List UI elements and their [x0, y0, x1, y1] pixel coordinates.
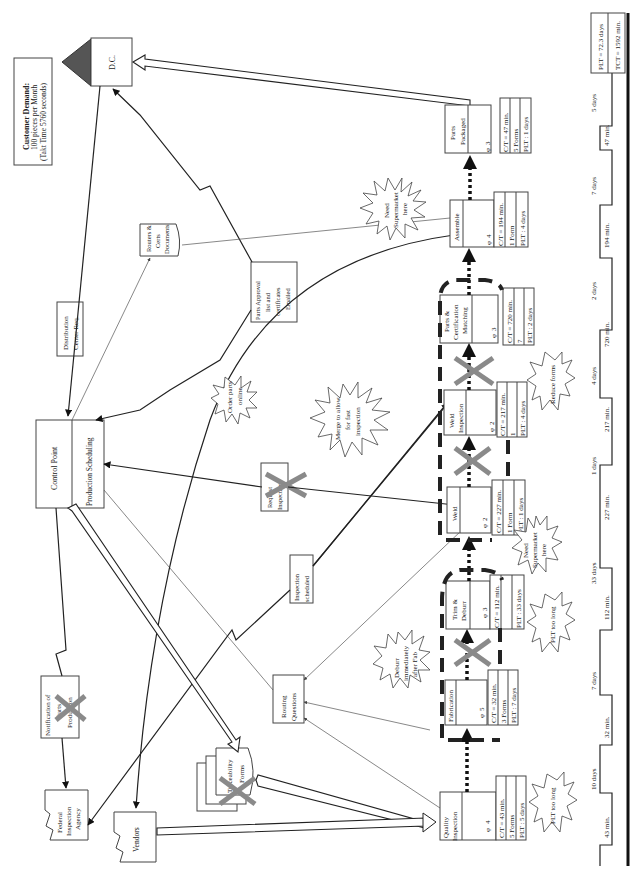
svg-text:Inspection: Inspection — [293, 573, 300, 601]
flow-control-to-routers — [72, 258, 150, 420]
shipment-arrow-to-dc — [133, 55, 470, 106]
timeline-value-time: 217 min. — [603, 407, 611, 432]
timeline-wait-time: 7 days — [590, 672, 598, 690]
svg-text:C/T = 47 min.: C/T = 47 min. — [502, 112, 510, 152]
svg-text:3: 3 — [490, 327, 498, 331]
kaizen-burst-reduce-forms: Reduce forms — [527, 352, 575, 410]
svg-text:Deburr: Deburr — [460, 601, 468, 621]
flow-dc-to-control — [68, 86, 100, 416]
svg-text:C/T = 194 min.: C/T = 194 min. — [497, 203, 505, 246]
svg-text:Federal: Federal — [56, 812, 64, 833]
distribution-center-req-box: Distribution Center Req. — [57, 302, 83, 356]
svg-text:C/T = 112 min.: C/T = 112 min. — [493, 585, 501, 628]
timeline-summary-box: PLT = 72.3 days TCT = 1592 min. — [591, 13, 625, 73]
value-stream-map: Customer Demand: 100 pieces per Month (T… — [0, 0, 635, 878]
operator-icon: φ — [484, 828, 492, 832]
svg-text:4: 4 — [484, 820, 492, 824]
operator-icon: φ — [478, 714, 486, 718]
svg-text:Parts Approval: Parts Approval — [254, 281, 261, 320]
timeline-value-time: 32 min. — [603, 716, 611, 738]
svg-text:Packaged: Packaged — [459, 118, 467, 145]
production-scheduling-label: Production Scheduling — [85, 437, 94, 506]
svg-text:after Fab: after Fab — [411, 651, 419, 677]
svg-text:Forms: Forms — [238, 765, 246, 783]
svg-text:PLT : 5 days: PLT : 5 days — [518, 803, 526, 838]
svg-text:Reduce forms: Reduce forms — [549, 365, 557, 404]
svg-text:Trim &: Trim & — [451, 598, 459, 620]
svg-text:Weld: Weld — [448, 413, 456, 428]
svg-text:for fast: for fast — [344, 410, 352, 430]
svg-text:Inspection: Inspection — [65, 806, 73, 836]
shipment-arrow-scheduling-to-traceability — [68, 504, 240, 752]
process-parts-packaged: Parts Packaged φ 3 C/T = 47 min. 5 Forms… — [445, 98, 531, 153]
customer-dc: D.C. — [62, 38, 132, 86]
svg-text:Inspection: Inspection — [457, 403, 465, 433]
operator-icon: φ — [490, 334, 498, 338]
svg-text:Agency: Agency — [74, 808, 82, 830]
svg-text:3: 3 — [481, 607, 489, 611]
timeline-value-time: 112 min. — [603, 595, 611, 620]
svg-text:C/T = 32 min.: C/T = 32 min. — [490, 683, 498, 723]
timeline-value-time: 47 min. — [603, 124, 611, 146]
operator-icon: φ — [481, 614, 489, 618]
svg-text:immediately: immediately — [402, 646, 410, 681]
kaizen-burst-plt-qi: PLT too long — [529, 772, 577, 832]
svg-text:here: here — [540, 544, 548, 556]
svg-text:Documents: Documents — [163, 224, 170, 254]
kaizen-burst-deburr: Deburr immediately after Fab — [373, 630, 430, 688]
timeline-value-time: 194 min. — [603, 223, 611, 248]
inspection-scheduled-box: Inspection scheduled — [290, 555, 313, 603]
svg-text:PLT : 4 days: PLT : 4 days — [519, 211, 527, 246]
svg-text:5: 5 — [478, 707, 486, 711]
svg-text:1: 1 — [509, 432, 517, 436]
svg-text:1 Form: 1 Form — [506, 512, 514, 533]
svg-text:PLT too long: PLT too long — [549, 606, 557, 643]
svg-text:Notification of: Notification of — [44, 694, 52, 736]
timeline-wait-time: 2 days — [590, 282, 598, 300]
operator-icon: φ — [481, 524, 489, 528]
svg-text:Vendors: Vendors — [132, 827, 141, 852]
notification-parts-production-box: Notification of Parts Production — [41, 676, 85, 738]
control-point-box: Control Point Production Scheduling — [36, 420, 104, 508]
process-weld-inspection: Weld Inspection φ 2 C/T = 217 min. 1 PLT… — [444, 382, 527, 437]
kaizen-burst-order-parts: Order parts online — [211, 376, 257, 424]
svg-text:Supermarket: Supermarket — [392, 192, 400, 228]
svg-text:scheduled: scheduled — [303, 575, 310, 602]
svg-text:PLT : 1 days: PLT : 1 days — [522, 117, 530, 152]
svg-text:Need: Need — [383, 203, 391, 218]
request-inspection-box: Request Inspection — [261, 463, 306, 511]
svg-text:2: 2 — [488, 421, 496, 425]
timeline-ladder: 43 min. 32 min. 112 min. 227 min. 217 mi… — [590, 72, 612, 866]
operator-icon: φ — [484, 148, 492, 152]
flow-control-to-notification — [56, 508, 66, 676]
customer-demand-qty: 100 pieces per Month — [30, 85, 39, 150]
process-weld: Weld φ 2 C/T = 227 min. 1 Form PLT : 1 d… — [447, 480, 525, 535]
kaizen-burst-need-supermarket-top: Need Supermarket here — [360, 178, 426, 240]
svg-text:1 Form: 1 Form — [508, 225, 516, 246]
routing-questions-box: Routing Questions — [273, 675, 304, 723]
svg-text:C/T = 217 min.: C/T = 217 min. — [499, 393, 507, 436]
customer-demand-box: Customer Demand: 100 pieces per Month (T… — [14, 58, 52, 165]
svg-text:Weld: Weld — [451, 506, 459, 521]
svg-text:PLT : 1 days: PLT : 1 days — [517, 498, 525, 533]
timeline-wait-time: 4 days — [590, 367, 598, 385]
flow-scheduled-to-federal — [88, 590, 290, 825]
svg-text:4: 4 — [485, 234, 493, 238]
svg-text:Deburr: Deburr — [393, 658, 401, 678]
svg-text:Routers &: Routers & — [145, 225, 152, 252]
svg-text:Quality: Quality — [442, 817, 450, 838]
vendors: Vendors — [114, 812, 156, 862]
timeline-wait-time: 7 days — [590, 177, 598, 195]
svg-text:Assemble: Assemble — [453, 213, 461, 241]
timeline-value-time: 227 min. — [603, 495, 611, 520]
federal-inspection-agency: Federal Inspection Agency — [45, 790, 88, 840]
svg-text:Distribution: Distribution — [62, 316, 70, 350]
svg-text:Questions: Questions — [290, 693, 298, 721]
svg-text:online: online — [236, 388, 244, 406]
timeline-wait-time: 1 days — [590, 457, 598, 475]
traceability-forms-stack: Traceability Forms — [197, 748, 255, 811]
timeline-value-time: 720 min. — [603, 322, 611, 347]
operator-icon: φ — [488, 428, 496, 432]
svg-text:3 Forms: 3 Forms — [500, 700, 508, 723]
svg-text:3: 3 — [484, 141, 492, 145]
